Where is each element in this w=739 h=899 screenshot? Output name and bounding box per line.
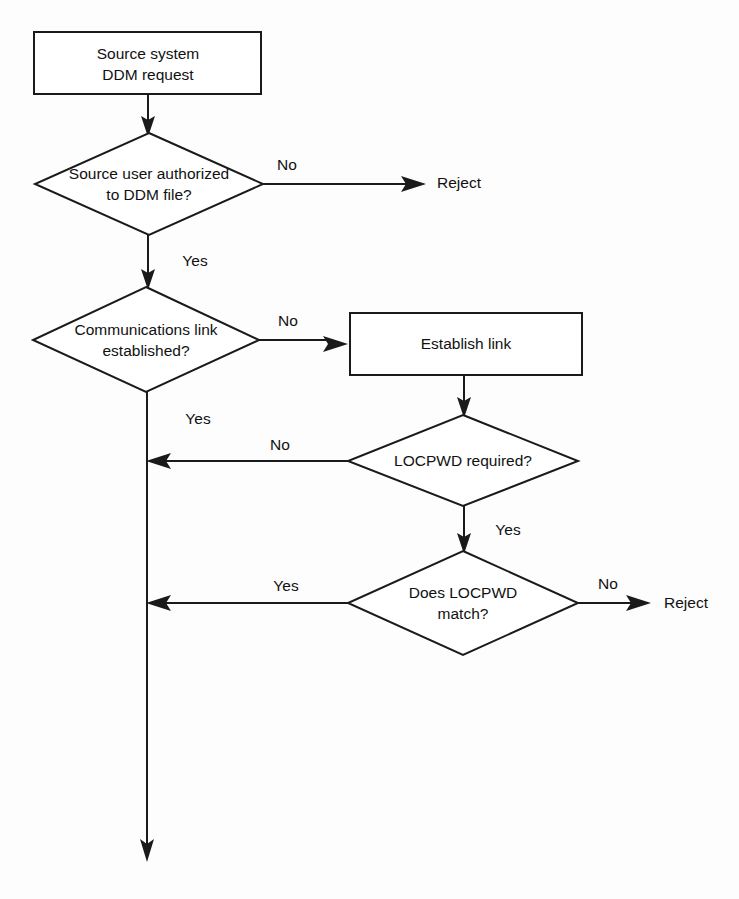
edge-label-comms-no: No <box>278 312 298 329</box>
edge-locpwd-match-yes <box>146 595 348 611</box>
node-comms[interactable]: Communications link established? <box>33 287 259 392</box>
node-establish[interactable]: Establish link <box>350 313 582 375</box>
edge-label-auth-yes: Yes <box>182 252 208 269</box>
edge-label-locpwd-required-yes: Yes <box>495 521 521 538</box>
edge-label-locpwd-required-no: No <box>270 436 290 453</box>
node-locpwd-match[interactable]: Does LOCPWD match? <box>348 551 578 655</box>
edge-comms-no <box>259 336 348 352</box>
node-comms-line1: Communications link <box>75 321 218 338</box>
flowchart-canvas: Source system DDM request Source user au… <box>0 0 739 899</box>
edge-label-comms-yes: Yes <box>185 410 211 427</box>
node-auth[interactable]: Source user authorized to DDM file? <box>35 133 263 235</box>
edge-label-locpwd-match-no: No <box>598 575 618 592</box>
node-start-line2: DDM request <box>102 66 194 83</box>
node-establish-line1: Establish link <box>421 335 512 352</box>
node-reject-locpwd: Reject <box>664 594 709 611</box>
edge-label-auth-no: No <box>277 156 297 173</box>
edge-auth-no <box>263 176 426 192</box>
node-auth-line1: Source user authorized <box>69 165 229 182</box>
edge-establish-to-locpwd <box>457 375 471 418</box>
node-locpwd-match-line1: Does LOCPWD <box>409 584 518 601</box>
node-locpwd-match-line2: match? <box>438 605 489 622</box>
node-reject-auth: Reject <box>437 174 482 191</box>
node-reject-auth-label: Reject <box>437 174 482 191</box>
flowchart-svg: Source system DDM request Source user au… <box>0 0 739 899</box>
node-reject-locpwd-label: Reject <box>664 594 709 611</box>
edge-locpwd-match-no <box>578 595 651 611</box>
edge-start-to-auth <box>141 94 155 137</box>
node-locpwd-required-line1: LOCPWD required? <box>394 452 532 469</box>
edge-locpwd-required-yes <box>457 506 471 554</box>
edge-auth-yes <box>141 235 155 290</box>
node-comms-line2: established? <box>102 342 189 359</box>
edge-locpwd-required-no <box>146 453 348 469</box>
node-start[interactable]: Source system DDM request <box>34 32 261 94</box>
node-locpwd-required[interactable]: LOCPWD required? <box>348 415 578 506</box>
edge-label-locpwd-match-yes: Yes <box>273 577 299 594</box>
node-auth-line2: to DDM file? <box>106 186 192 203</box>
node-start-line1: Source system <box>97 45 200 62</box>
